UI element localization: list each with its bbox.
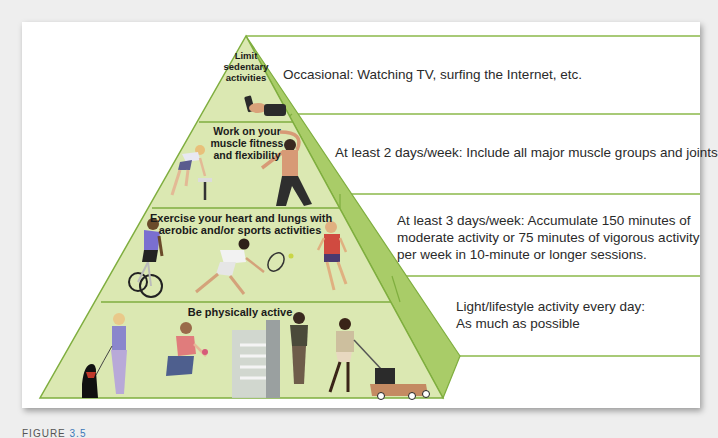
tier-1-label-line: sedentary	[218, 61, 274, 72]
figure-caption: FIGURE 3.5	[22, 428, 86, 438]
description-line: Light/lifestyle activity every day:	[456, 298, 645, 315]
tier-1-label-line: Limit	[218, 50, 274, 61]
caption-prefix: FIGURE	[22, 428, 66, 438]
description-line: Occasional: Watching TV, surfing the Int…	[283, 66, 582, 83]
tier-2-label: Work on your muscle fitness and flexibil…	[205, 125, 289, 161]
tier-4-label-line: Be physically active	[185, 306, 295, 318]
description-line: moderate activity or 75 minutes of vigor…	[397, 229, 699, 246]
tier-1-description: Occasional: Watching TV, surfing the Int…	[283, 66, 582, 83]
tier-2-label-line: muscle fitness	[205, 137, 289, 149]
tier-1-label-line: activities	[218, 72, 274, 83]
tier-3-label-line: Exercise your heart and lungs with	[150, 212, 330, 224]
description-line: At least 3 days/week: Accumulate 150 min…	[397, 212, 699, 229]
tier-3-label-line: aerobic and/or sports activities	[150, 224, 330, 236]
tier-3-description: At least 3 days/week: Accumulate 150 min…	[397, 212, 699, 263]
description-line: per week in 10-minute or longer sessions…	[397, 246, 699, 263]
tier-2-description: At least 2 days/week: Include all major …	[335, 144, 718, 161]
description-line: As much as possible	[456, 315, 645, 332]
tier-3-label: Exercise your heart and lungs with aerob…	[150, 212, 330, 236]
tier-1-label: Limit sedentary activities	[218, 50, 274, 83]
tier-4-label: Be physically active	[185, 306, 295, 318]
caption-number: 3.5	[70, 428, 87, 438]
tier-2-label-line: and flexibility	[205, 149, 289, 161]
tier-2-label-line: Work on your	[205, 125, 289, 137]
tier-4-description: Light/lifestyle activity every day: As m…	[456, 298, 645, 332]
description-line: At least 2 days/week: Include all major …	[335, 144, 718, 161]
